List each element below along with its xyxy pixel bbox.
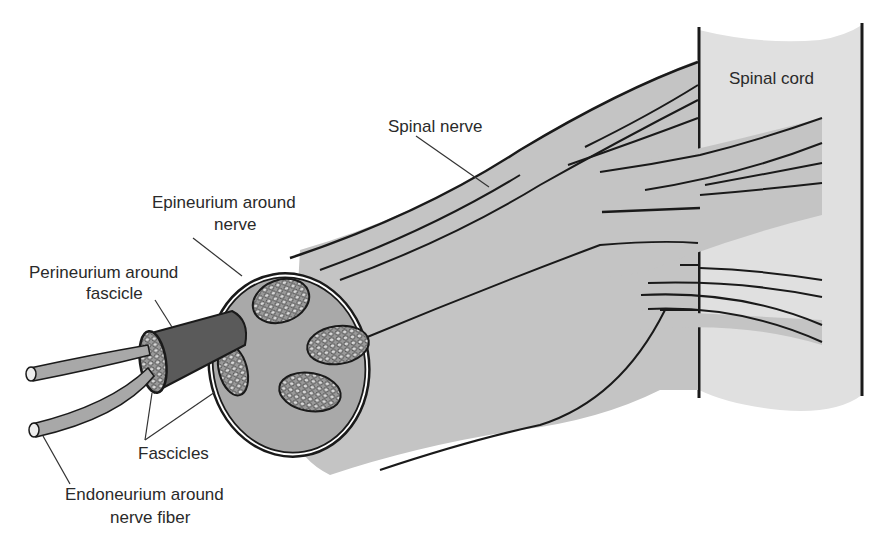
label-spinal-cord: Spinal cord (729, 68, 814, 89)
label-endoneurium-line1: Endoneurium around (65, 484, 224, 505)
label-endoneurium-line2: nerve fiber (110, 507, 190, 528)
label-epineurium-line1: Epineurium around (152, 192, 296, 213)
label-perineurium-line2: fascicle (86, 283, 143, 304)
label-fascicles: Fascicles (138, 443, 209, 464)
label-spinal-nerve: Spinal nerve (388, 116, 483, 137)
label-perineurium-line1: Perineurium around (29, 262, 178, 283)
label-epineurium-line2: nerve (214, 214, 257, 235)
endoneurium (26, 345, 154, 437)
